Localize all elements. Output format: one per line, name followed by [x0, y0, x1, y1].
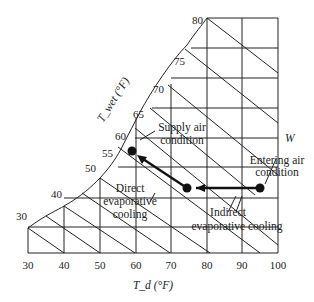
humidity-ratio-label: W: [285, 132, 296, 144]
svg-text:30: 30: [16, 210, 28, 222]
supply-annotation: Supply air condition: [158, 121, 206, 146]
entering-point: [256, 184, 265, 193]
x-axis-label: T_d (°F): [133, 279, 173, 292]
svg-text:evaporative: evaporative: [103, 195, 157, 208]
indirect-annotation: Indirect evaporative cooling: [191, 206, 282, 233]
wet-bulb-axis-label: T_wet (°F): [95, 75, 133, 125]
svg-text:Supply air: Supply air: [158, 121, 206, 134]
svg-text:55: 55: [102, 147, 114, 159]
supply-point: [128, 147, 137, 156]
svg-text:40: 40: [59, 259, 71, 271]
svg-text:60: 60: [115, 130, 127, 142]
svg-text:condition: condition: [255, 166, 299, 178]
svg-text:80: 80: [192, 14, 204, 26]
svg-text:50: 50: [85, 162, 97, 174]
svg-text:50: 50: [95, 259, 107, 271]
svg-text:Indirect: Indirect: [210, 206, 247, 218]
svg-text:40: 40: [51, 188, 63, 200]
wet-bulb-ticks: 30 40 50 55 60 65 70 75 80: [16, 14, 204, 222]
svg-text:70: 70: [153, 83, 165, 95]
psychrometric-chart: 30 40 50 60 70 80 90 100 30 40 50 55 60 …: [0, 0, 314, 302]
svg-text:60: 60: [131, 259, 143, 271]
svg-text:70: 70: [166, 259, 178, 271]
svg-text:Direct: Direct: [116, 182, 146, 194]
svg-text:30: 30: [23, 259, 35, 271]
svg-text:100: 100: [270, 259, 287, 271]
svg-text:cooling: cooling: [113, 208, 148, 221]
svg-text:90: 90: [237, 259, 249, 271]
direct-annotation: Direct evaporative cooling: [103, 182, 157, 221]
svg-text:evaporative cooling: evaporative cooling: [191, 220, 282, 233]
entering-annotation: Entering air condition: [250, 154, 305, 178]
intermediate-point: [183, 184, 192, 193]
x-axis-ticks: 30 40 50 60 70 80 90 100: [23, 259, 287, 271]
svg-text:75: 75: [174, 55, 186, 67]
svg-text:65: 65: [133, 108, 145, 120]
svg-text:condition: condition: [160, 134, 204, 146]
svg-text:80: 80: [202, 259, 214, 271]
